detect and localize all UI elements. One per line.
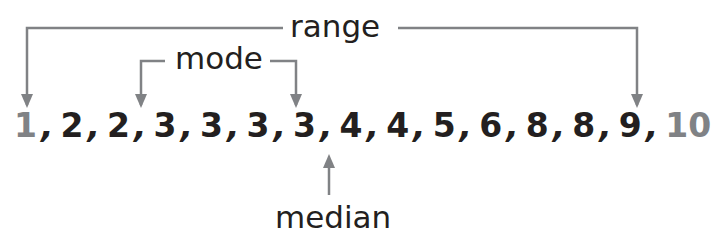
median-up-arrow-icon bbox=[323, 154, 335, 168]
separator-comma: , bbox=[41, 106, 54, 145]
range-label: range bbox=[284, 11, 386, 42]
mode-label: mode bbox=[169, 43, 269, 74]
separator-comma: , bbox=[413, 106, 426, 145]
median-label: median bbox=[269, 202, 397, 233]
data-value: 4 bbox=[386, 106, 409, 145]
separator-comma: , bbox=[134, 106, 147, 145]
data-value: 2 bbox=[107, 106, 130, 145]
median-arrow bbox=[323, 154, 335, 195]
separator-comma: , bbox=[367, 106, 380, 145]
data-value: 4 bbox=[340, 106, 363, 145]
separator-comma: , bbox=[320, 106, 333, 145]
separator-comma: , bbox=[553, 106, 566, 145]
data-value: 2 bbox=[61, 106, 84, 145]
data-value: 3 bbox=[293, 106, 316, 145]
data-value: 1 bbox=[14, 106, 37, 145]
separator-comma: , bbox=[460, 106, 473, 145]
data-value: 8 bbox=[526, 106, 549, 145]
data-value: 3 bbox=[247, 106, 270, 145]
separator-comma: , bbox=[599, 106, 612, 145]
data-value: 3 bbox=[200, 106, 223, 145]
data-value: 5 bbox=[433, 106, 456, 145]
data-value: 6 bbox=[479, 106, 502, 145]
separator-comma: , bbox=[227, 106, 240, 145]
separator-comma: , bbox=[506, 106, 519, 145]
separator-comma: , bbox=[274, 106, 287, 145]
data-value: 3 bbox=[154, 106, 177, 145]
data-value: 8 bbox=[572, 106, 595, 145]
data-set: 1,2,2,3,3,3,3,4,4,5,6,8,8,9,10 bbox=[14, 106, 711, 145]
separator-comma: , bbox=[87, 106, 100, 145]
data-value: 10 bbox=[665, 106, 711, 145]
separator-comma: , bbox=[181, 106, 194, 145]
data-value: 9 bbox=[619, 106, 642, 145]
separator-comma: , bbox=[646, 106, 659, 145]
